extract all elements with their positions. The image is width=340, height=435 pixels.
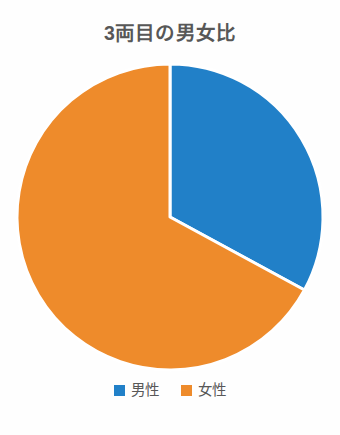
pie-plot-area <box>0 55 340 375</box>
legend-item-female[interactable]: 女性 <box>181 382 226 398</box>
pie-chart-figure: 3両目の男女比 男性 女性 <box>0 0 340 435</box>
pie-slice-group <box>17 64 323 370</box>
chart-legend: 男性 女性 <box>0 382 340 398</box>
legend-swatch-female-icon <box>181 385 192 396</box>
legend-swatch-male-icon <box>114 385 125 396</box>
legend-label-male: 男性 <box>131 382 159 398</box>
chart-title: 3両目の男女比 <box>0 20 340 46</box>
legend-label-female: 女性 <box>198 382 226 398</box>
legend-item-male[interactable]: 男性 <box>114 382 159 398</box>
pie-svg <box>0 55 340 375</box>
